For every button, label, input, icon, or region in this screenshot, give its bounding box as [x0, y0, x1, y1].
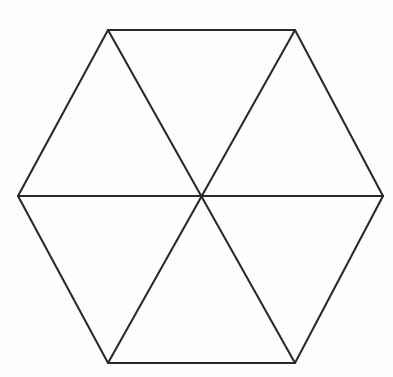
hexagon-figure [0, 0, 393, 377]
figure-canvas [0, 0, 393, 377]
